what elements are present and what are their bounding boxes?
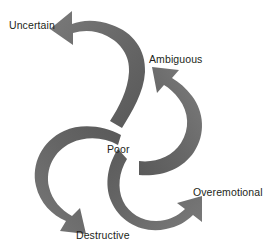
label-ambiguous: Ambiguous: [149, 53, 202, 65]
arrow-to-ambiguous: [139, 67, 202, 175]
label-uncertain: Uncertain: [9, 19, 55, 31]
label-destructive: Destructive: [76, 229, 130, 241]
diagram-canvas: Uncertain Ambiguous Poor Overemotional D…: [0, 0, 270, 252]
label-poor-center: Poor: [107, 143, 130, 155]
arrow-to-uncertain: [50, 11, 145, 128]
spiral-arrows-graphic: [0, 0, 270, 252]
label-overemotional: Overemotional: [193, 186, 263, 198]
